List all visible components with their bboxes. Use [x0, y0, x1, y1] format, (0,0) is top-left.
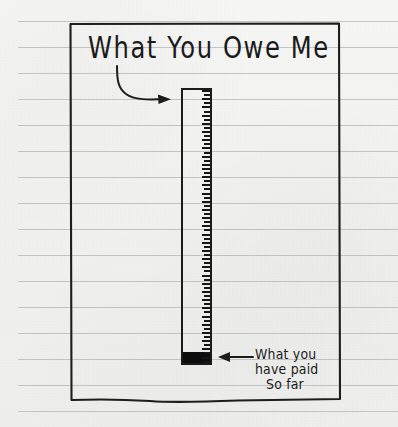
curved-arrow-icon [117, 66, 171, 104]
left-arrow-icon [218, 352, 253, 362]
notebook-page: What You Owe Me What you have paid So fa… [0, 0, 398, 427]
page-title: What You Owe Me [88, 31, 330, 65]
annotation-line-3: So far [266, 377, 304, 393]
